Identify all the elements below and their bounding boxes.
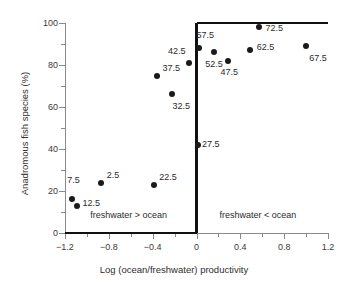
data-point [69, 196, 75, 202]
x-tick-label: −0.8 [100, 242, 118, 252]
y-tick-major [59, 23, 65, 24]
y-tick-minor [61, 170, 65, 171]
data-point-label: 72.5 [266, 23, 284, 33]
data-point-label: 37.5 [163, 63, 181, 73]
y-tick-minor [61, 44, 65, 45]
data-point [195, 142, 201, 148]
data-point [303, 43, 309, 49]
x-tick-label: −1.2 [56, 242, 74, 252]
data-point [169, 91, 175, 97]
y-tick-minor [61, 212, 65, 213]
data-point [186, 60, 192, 66]
y-tick-label: 100 [24, 18, 58, 28]
data-point [74, 203, 80, 209]
x-tick-label: 0.4 [234, 242, 247, 252]
x-tick-major [240, 233, 241, 239]
y-tick-minor [61, 128, 65, 129]
data-point [154, 73, 160, 79]
step-segment [65, 232, 197, 235]
data-point-label: 47.5 [221, 67, 239, 77]
data-point-label: 12.5 [83, 198, 101, 208]
x-tick-major [328, 233, 329, 239]
step-segment [197, 22, 329, 25]
x-tick-major [284, 233, 285, 239]
y-axis-line [65, 23, 66, 233]
region-right: freshwater < ocean [219, 210, 296, 220]
step-segment [195, 23, 198, 233]
y-tick-major [59, 191, 65, 192]
data-point [211, 49, 217, 55]
x-tick-label: 1.2 [322, 242, 335, 252]
data-point [98, 180, 104, 186]
x-tick-label: 0 [194, 242, 199, 252]
region-left: freshwater > ocean [90, 210, 167, 220]
data-point-label: 2.5 [107, 170, 120, 180]
data-point-label: 22.5 [159, 172, 177, 182]
data-point [196, 45, 202, 51]
data-point-label: 7.5 [67, 175, 80, 185]
data-point-label: 27.5 [202, 139, 220, 149]
x-tick-minor [306, 233, 307, 237]
x-tick-minor [218, 233, 219, 237]
x-tick-label: 0.8 [278, 242, 291, 252]
data-point [247, 47, 253, 53]
data-point-label: 62.5 [257, 42, 275, 52]
scatter-chart: −1.2−0.8−0.400.40.81.2 020406080100 7.51… [0, 0, 348, 288]
data-point [256, 24, 262, 30]
data-point [151, 182, 157, 188]
data-point-label: 42.5 [168, 46, 186, 56]
y-axis-title: Anadromous fish species (%) [19, 34, 30, 234]
y-tick-minor [61, 86, 65, 87]
x-tick-major [197, 233, 198, 239]
data-point-label: 57.5 [197, 30, 215, 40]
x-axis-title: Log (ocean/freshwater) productivity [100, 264, 248, 275]
data-point-label: 32.5 [172, 101, 190, 111]
y-tick-major [59, 149, 65, 150]
y-tick-major [59, 107, 65, 108]
data-point [225, 58, 231, 64]
data-point-label: 67.5 [309, 53, 327, 63]
y-tick-major [59, 65, 65, 66]
x-tick-minor [262, 233, 263, 237]
x-tick-label: −0.4 [144, 242, 162, 252]
